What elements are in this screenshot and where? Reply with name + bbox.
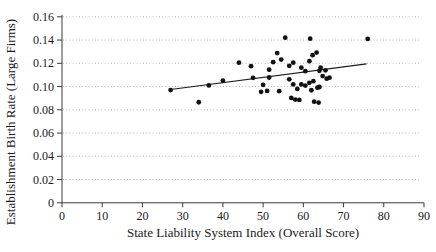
scatter-chart: 00.020.040.060.080.100.120.140.160102030… <box>0 0 436 252</box>
y-tick-label: 0.08 <box>33 103 54 117</box>
y-tick-label: 0.12 <box>33 56 54 70</box>
data-point <box>303 83 308 88</box>
x-tick-label: 50 <box>257 209 269 223</box>
data-point <box>267 75 272 80</box>
data-point <box>287 77 292 82</box>
data-point <box>275 51 280 56</box>
data-point <box>317 85 322 90</box>
data-point <box>327 75 332 80</box>
data-point <box>279 57 284 62</box>
y-tick-label: 0.06 <box>33 126 54 140</box>
data-point <box>271 60 276 65</box>
data-point <box>365 36 370 41</box>
y-tick-label: 0 <box>48 196 54 210</box>
x-tick-label: 70 <box>338 209 350 223</box>
data-point <box>295 86 300 91</box>
data-point <box>318 65 323 70</box>
x-tick-label: 40 <box>217 209 229 223</box>
data-point <box>314 50 319 55</box>
data-point <box>206 83 211 88</box>
data-point <box>291 60 296 65</box>
data-point <box>303 69 308 74</box>
data-point <box>310 53 315 58</box>
data-point <box>249 64 254 69</box>
data-point <box>237 60 242 65</box>
y-tick-label: 0.16 <box>33 10 54 24</box>
data-point <box>311 79 316 84</box>
x-tick-label: 0 <box>59 209 65 223</box>
data-point <box>297 98 302 103</box>
y-tick-label: 0.02 <box>33 173 54 187</box>
data-point <box>316 100 321 105</box>
y-tick-label: 0.14 <box>33 33 54 47</box>
data-point <box>299 65 304 70</box>
y-tick-label: 0.10 <box>33 80 54 94</box>
data-point <box>261 82 266 87</box>
data-point <box>277 89 282 94</box>
plot-area: 00.020.040.060.080.100.120.140.160102030… <box>0 0 436 252</box>
x-tick-label: 80 <box>378 209 390 223</box>
gridlines <box>63 17 419 180</box>
data-point <box>265 89 270 94</box>
x-axis-title: State Liability System Index (Overall Sc… <box>127 225 359 240</box>
tick-labels: 00.020.040.060.080.100.120.140.160102030… <box>33 10 430 223</box>
data-point <box>283 35 288 40</box>
data-point <box>259 89 264 94</box>
data-point <box>251 75 256 80</box>
tick-marks <box>57 17 424 208</box>
data-point <box>220 78 225 83</box>
data-point <box>320 74 325 79</box>
y-tick-label: 0.04 <box>33 149 54 163</box>
axes <box>62 15 424 203</box>
scatter-series <box>168 35 370 105</box>
x-tick-label: 30 <box>177 209 189 223</box>
data-point <box>267 67 272 72</box>
data-point <box>312 99 317 104</box>
x-tick-label: 60 <box>297 209 309 223</box>
data-point <box>308 36 313 41</box>
x-tick-label: 90 <box>418 209 430 223</box>
y-axis-title: Establishment Birth Rate (Large Firms) <box>3 19 18 225</box>
data-point <box>323 68 328 73</box>
data-point <box>196 100 201 105</box>
data-point <box>309 88 314 93</box>
data-point <box>307 59 312 64</box>
data-point <box>291 82 296 87</box>
data-point <box>287 63 292 68</box>
x-tick-label: 20 <box>136 209 148 223</box>
data-point <box>168 88 173 93</box>
x-tick-label: 10 <box>96 209 108 223</box>
